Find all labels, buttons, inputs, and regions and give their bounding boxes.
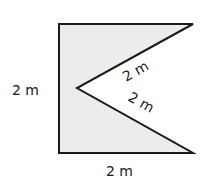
figure-canvas: 2 m 2 m 2 m 2 m	[0, 0, 204, 185]
notch-lower-edge-label: 2 m	[126, 89, 157, 116]
left-side-label: 2 m	[12, 82, 39, 98]
bottom-side-label: 2 m	[106, 163, 133, 179]
notched-square-shape	[59, 24, 193, 153]
